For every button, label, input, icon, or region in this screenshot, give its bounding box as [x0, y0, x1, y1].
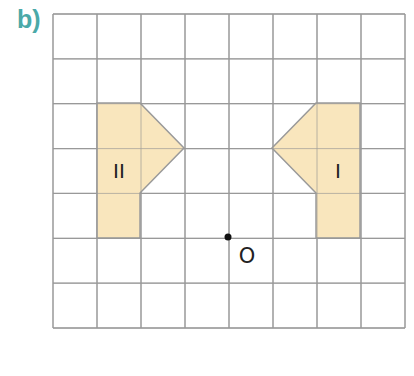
shape-I [272, 103, 360, 238]
shape-label: II [113, 159, 125, 183]
shapes: III [53, 14, 405, 328]
shape-label: I [335, 159, 341, 183]
point-dot [225, 234, 232, 241]
grid-diagram: III O [0, 0, 414, 376]
point-label: O [239, 244, 256, 268]
